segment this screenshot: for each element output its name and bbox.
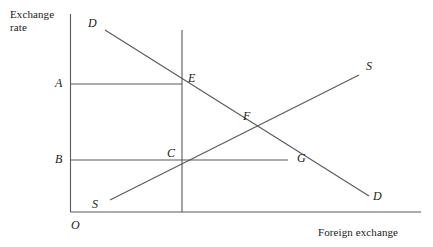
- y-tick-label-a: A: [55, 77, 62, 89]
- demand-curve-label-upper: D: [88, 17, 97, 29]
- demand-curve-label-lower: D: [373, 190, 382, 202]
- point-label-e: E: [188, 72, 195, 84]
- point-label-c: C: [167, 147, 175, 159]
- point-label-f: F: [243, 110, 250, 122]
- exchange-rate-diagram: Exchange rate Foreign exchange O A B E C…: [0, 0, 433, 247]
- diagram-canvas: [0, 0, 433, 247]
- origin-label: O: [71, 219, 80, 231]
- x-axis-title: Foreign exchange: [318, 226, 398, 239]
- supply-curve: [110, 75, 359, 200]
- y-axis-title: Exchange rate: [10, 8, 70, 34]
- supply-curve-label-upper: S: [366, 60, 372, 72]
- y-tick-label-b: B: [55, 153, 62, 165]
- point-label-g: G: [297, 152, 306, 164]
- demand-curve: [105, 30, 369, 196]
- supply-curve-label-lower: S: [92, 198, 98, 210]
